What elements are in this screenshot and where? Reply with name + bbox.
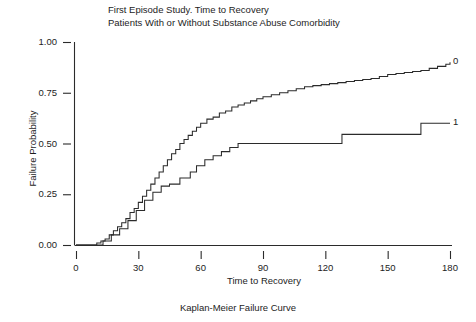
x-tick-label: 180 xyxy=(433,262,467,273)
y-axis-ticks xyxy=(63,43,71,246)
chart-title-line-2: Patients With or Without Substance Abuse… xyxy=(108,17,340,30)
y-tick-label: 0.00 xyxy=(23,239,57,250)
x-tick-label: 150 xyxy=(371,262,405,273)
kaplan-meier-figure: First Episode Study. Time to Recovery Pa… xyxy=(0,0,476,322)
km-curve-1 xyxy=(76,123,450,245)
x-tick-label: 30 xyxy=(121,262,155,273)
y-tick-label: 1.00 xyxy=(23,36,57,47)
x-axis-ticks xyxy=(77,251,451,259)
chart-title: First Episode Study. Time to Recovery Pa… xyxy=(108,4,340,29)
series-end-label-0: 0 xyxy=(453,55,458,66)
x-axis-label: Time to Recovery xyxy=(76,275,452,286)
km-curve-0 xyxy=(76,62,450,245)
x-tick-label: 0 xyxy=(59,262,93,273)
plot-area xyxy=(0,0,476,322)
figure-caption: Kaplan-Meier Failure Curve xyxy=(0,302,476,313)
y-tick-label: 0.75 xyxy=(23,87,57,98)
y-tick-label: 0.50 xyxy=(23,138,57,149)
x-tick-label: 90 xyxy=(246,262,280,273)
curve-group xyxy=(76,62,450,245)
x-tick-label: 120 xyxy=(308,262,342,273)
chart-title-line-1: First Episode Study. Time to Recovery xyxy=(108,4,340,17)
x-tick-label: 60 xyxy=(184,262,218,273)
y-tick-label: 0.25 xyxy=(23,188,57,199)
series-end-label-1: 1 xyxy=(453,116,458,127)
